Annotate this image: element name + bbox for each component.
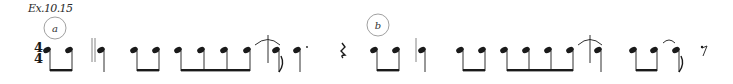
section-b-label: b — [375, 20, 381, 31]
section-a-notes — [50, 35, 345, 72]
time-sig-denominator: 4 — [34, 51, 43, 66]
time-signature: 4 4 — [34, 40, 43, 66]
rhythm-score: a 4 4 — [0, 0, 733, 84]
section-marker-a: a — [44, 17, 66, 39]
section-marker-b: b — [367, 14, 389, 36]
section-a-noteheads — [42, 46, 302, 54]
section-b-notes — [377, 35, 707, 72]
section-a-label: a — [52, 23, 58, 34]
